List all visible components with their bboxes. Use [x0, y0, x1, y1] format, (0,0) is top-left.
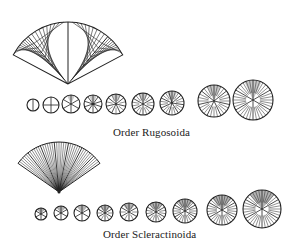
- scleractinoida-septal-fan: [18, 142, 100, 194]
- scleractinoida-caption: Order Scleractinoida: [103, 228, 196, 240]
- growth-stage-7: [173, 199, 197, 223]
- rugosoida-caption: Order Rugosoida: [113, 126, 190, 138]
- growth-stage-8: [207, 195, 237, 225]
- growth-stage-3: [62, 95, 80, 113]
- rugosoida-septal-fan: [13, 22, 122, 84]
- growth-stage-6: [132, 93, 154, 115]
- growth-stage-2: [43, 97, 59, 113]
- growth-stage-9: [243, 190, 281, 228]
- growth-stage-1: [27, 99, 39, 111]
- rugosoida-growth-stages: [27, 80, 273, 120]
- scleractinoida-growth-stages: [35, 190, 281, 228]
- growth-stage-9: [233, 80, 273, 120]
- growth-stage-3: [74, 205, 90, 221]
- growth-stage-6: [146, 202, 166, 222]
- growth-stage-5: [106, 94, 126, 114]
- growth-stage-8: [198, 85, 230, 117]
- growth-stage-4: [97, 205, 113, 221]
- growth-stage-7: [160, 91, 184, 115]
- growth-stage-5: [120, 203, 138, 221]
- growth-stage-4: [84, 95, 102, 113]
- coral-septa-diagram: [0, 0, 297, 244]
- growth-stage-2: [54, 206, 68, 220]
- growth-stage-1: [35, 208, 47, 220]
